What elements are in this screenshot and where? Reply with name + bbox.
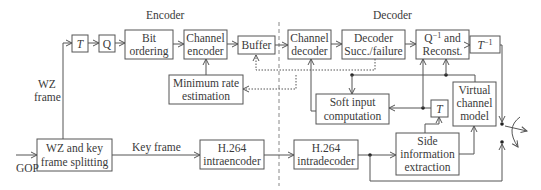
svg-text:Q−1 and: Q−1 and	[424, 31, 461, 44]
switch-contact-bottom	[500, 140, 504, 144]
encoder-title: Encoder	[146, 9, 184, 21]
wz-frame-arrow	[63, 43, 72, 139]
svg-text:ordering: ordering	[130, 45, 169, 58]
svg-text:intraencoder: intraencoder	[203, 155, 261, 167]
svg-text:Channel: Channel	[290, 32, 328, 44]
svg-text:Channel: Channel	[186, 32, 224, 44]
feedback-to-min-rate	[243, 75, 296, 89]
svg-text:Q: Q	[103, 38, 112, 50]
svg-text:intradecoder: intradecoder	[297, 155, 355, 167]
block-h264-intraencoder: H.264 intraencoder	[200, 140, 264, 169]
block-virtual-channel-model: Virtual channel model	[453, 82, 496, 126]
svg-text:channel: channel	[457, 97, 493, 109]
side-info-to-vcm	[459, 126, 474, 154]
block-soft-input-computation: Soft input computation	[316, 94, 389, 124]
svg-text:Virtual: Virtual	[459, 84, 491, 96]
svg-text:model: model	[460, 110, 489, 122]
svg-text:Side: Side	[417, 135, 437, 147]
block-qinv-reconst: Q−1 and Reconst.	[416, 30, 469, 59]
block-channel-encoder: Channel encoder	[184, 30, 227, 59]
block-wz-key-frame-splitting: WZ and key frame splitting	[37, 139, 112, 171]
svg-text:Minimum rate: Minimum rate	[173, 77, 239, 89]
block-bit-ordering: Bit ordering	[125, 30, 173, 59]
block-h264-intradecoder: H.264 intradecoder	[294, 140, 358, 169]
block-t-inverse: T−1	[470, 36, 500, 53]
svg-text:information: information	[400, 148, 455, 160]
wz-frame-label-2: frame	[34, 91, 61, 103]
tinv-to-switch	[500, 45, 502, 122]
output-switch	[505, 117, 527, 147]
svg-text:WZ and key: WZ and key	[46, 142, 103, 155]
svg-text:Decoder: Decoder	[354, 32, 393, 44]
svg-text:encoder: encoder	[187, 45, 224, 57]
block-minimum-rate-estimation: Minimum rate estimation	[169, 75, 243, 104]
svg-text:decoder: decoder	[291, 45, 328, 57]
wz-video-codec-diagram: Encoder Decoder T Q Bit ordering Channel…	[0, 0, 541, 190]
block-decoder-success-failure: Decoder Succ./failure	[342, 30, 405, 59]
svg-text:frame splitting: frame splitting	[41, 156, 109, 169]
decoder-title: Decoder	[373, 9, 412, 21]
block-buffer: Buffer	[238, 36, 275, 54]
block-channel-decoder: Channel decoder	[288, 30, 331, 59]
gop-label: GOP	[16, 162, 39, 174]
svg-text:Succ./failure: Succ./failure	[344, 45, 402, 57]
svg-text:H.264: H.264	[218, 142, 247, 154]
svg-text:extraction: extraction	[405, 161, 451, 173]
svg-text:computation: computation	[324, 110, 382, 123]
vcm-bus-line	[352, 75, 475, 82]
svg-text:Buffer: Buffer	[242, 39, 272, 51]
switch-contact-top	[500, 122, 504, 126]
soft-input-to-channel-decoder	[311, 59, 316, 111]
side-info-to-t	[425, 117, 439, 133]
block-t: T	[72, 35, 88, 52]
wz-frame-label: WZ	[38, 78, 56, 90]
block-q: Q	[99, 35, 115, 52]
block-t-side: T	[431, 100, 448, 117]
svg-text:estimation: estimation	[182, 90, 230, 102]
svg-text:Soft input: Soft input	[330, 96, 376, 109]
block-side-information-extraction: Side information extraction	[396, 133, 459, 175]
svg-text:Bit: Bit	[142, 32, 157, 44]
key-frame-label: Key frame	[132, 141, 181, 154]
svg-text:Reconst.: Reconst.	[423, 45, 463, 57]
svg-text:H.264: H.264	[312, 142, 341, 154]
